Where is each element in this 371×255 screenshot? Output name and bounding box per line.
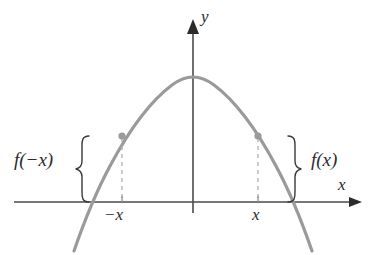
x-axis-arrowhead: [349, 197, 362, 207]
tick-label-x: x: [252, 206, 260, 223]
label-f-x: f(x): [311, 150, 337, 169]
y-axis-label: y: [201, 8, 209, 25]
brace-left: [76, 136, 89, 202]
y-axis-arrowhead: [187, 19, 199, 34]
figure-canvas: [0, 0, 371, 255]
tick-label-negative-x: −x: [104, 206, 123, 223]
label-f-negative-x: f(−x): [14, 150, 53, 169]
even-function-figure: f(−x) f(x) −x x y x: [0, 0, 371, 255]
x-axis-label: x: [338, 176, 346, 193]
point-x: [254, 132, 261, 139]
point-neg-x: [118, 132, 125, 139]
